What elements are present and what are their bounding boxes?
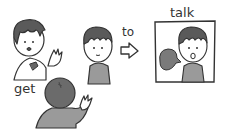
label-get: get	[14, 82, 35, 95]
label-to: to	[122, 26, 134, 38]
right-arrow-icon	[121, 43, 138, 58]
label-talk: talk	[170, 6, 194, 19]
illustration-canvas	[0, 0, 225, 138]
talk-frame	[155, 21, 215, 82]
worried-boy-figure	[14, 20, 62, 80]
listener-boy-figure	[84, 27, 112, 84]
back-view-boy-figure	[36, 78, 92, 128]
